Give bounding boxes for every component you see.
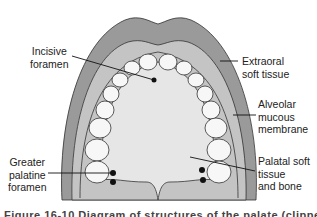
label-extraoral-soft-tissue: Extraoral soft tissue [242,55,289,80]
tooth [188,73,204,87]
tooth [205,118,227,138]
label-incisive-foramen: Incisive foramen [30,45,69,70]
label-palatal-soft-tissue: Palatal soft tissue and bone [258,155,310,193]
greater-palatine-foramen-dot [199,167,205,173]
tooth [96,101,114,119]
tooth [207,161,231,183]
tooth [112,73,128,87]
tooth [85,161,109,183]
greater-palatine-foramen-dot [110,179,116,185]
tooth [159,54,177,70]
tooth [197,86,213,102]
tooth [85,139,109,161]
tooth [124,61,140,75]
tooth [202,101,220,119]
tooth [139,54,157,70]
greater-palatine-foramen-dot [200,177,206,183]
label-greater-palatine-foramen: Greater palatine foramen [8,156,47,194]
tooth [176,61,192,75]
figure-caption: Figure 16-10 Diagram of structures of th… [4,209,317,217]
tooth [103,86,119,102]
tooth [207,139,231,161]
label-alveolar-mucous-membrane: Alveolar mucous membrane [258,98,308,136]
tooth [89,118,111,138]
